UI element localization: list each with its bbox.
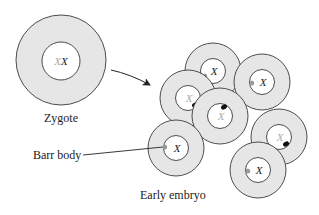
embryo-cell-bottom: X bbox=[230, 142, 286, 198]
active-x-chromosome: X bbox=[276, 131, 285, 143]
active-x-chromosome: X bbox=[217, 110, 226, 122]
zygote-cell: XX bbox=[16, 15, 106, 105]
active-x-chromosome: X bbox=[259, 76, 268, 88]
zygote-label: Zygote bbox=[44, 111, 78, 125]
active-x-chromosome: X bbox=[210, 65, 219, 77]
development-arrow-icon bbox=[111, 70, 150, 85]
barr-body-icon bbox=[250, 80, 254, 85]
early-embryo-label: Early embryo bbox=[140, 188, 206, 202]
active-x-chromosome: X bbox=[255, 164, 264, 176]
zygote-chromosomes: XX bbox=[53, 55, 69, 67]
barr-body-label: Barr body bbox=[33, 148, 81, 162]
early-embryo: XXXXXXX bbox=[148, 43, 307, 198]
active-x-chromosome: X bbox=[185, 92, 194, 104]
zygote-x-maternal: X bbox=[60, 55, 69, 67]
active-x-chromosome: X bbox=[173, 142, 182, 154]
x-inactivation-diagram: XX Zygote XXXXXXX Barr body Early embryo bbox=[0, 0, 319, 215]
barr-body-icon bbox=[246, 168, 250, 173]
barr-body-icon bbox=[163, 144, 167, 149]
